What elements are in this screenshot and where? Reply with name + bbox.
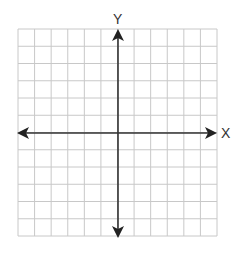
coordinate-plane [0, 0, 246, 253]
x-axis-label: X [221, 126, 230, 140]
y-axis-label: Y [113, 12, 122, 26]
